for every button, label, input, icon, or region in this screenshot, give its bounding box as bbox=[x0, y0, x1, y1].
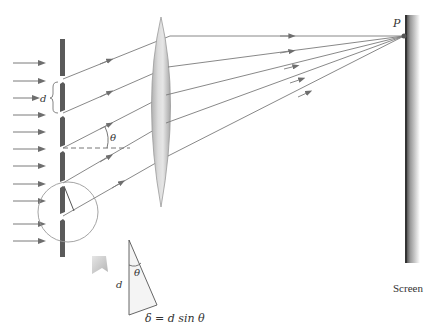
magnifier-circle bbox=[38, 182, 98, 242]
screen-label: Screen bbox=[393, 282, 423, 294]
diffraction-diagram: d θ P Screen bbox=[0, 0, 435, 336]
point-p-label: P bbox=[392, 17, 401, 30]
converging-lens bbox=[152, 17, 171, 207]
angle-arc bbox=[105, 127, 108, 148]
inset-angle-label: θ bbox=[134, 267, 140, 278]
path-difference-line bbox=[64, 186, 74, 211]
slit-spacing-label: d bbox=[40, 93, 46, 104]
angle-label: θ bbox=[110, 132, 116, 143]
inset-d-label: d bbox=[116, 279, 122, 290]
slit-spacing-brace bbox=[50, 82, 58, 113]
path-difference-formula: δ = d sin θ bbox=[145, 312, 205, 325]
screen-edge bbox=[405, 15, 407, 263]
focused-rays bbox=[166, 36, 404, 156]
zoom-arrow-icon bbox=[92, 256, 108, 274]
screen bbox=[406, 15, 420, 263]
point-p-marker bbox=[402, 34, 407, 39]
